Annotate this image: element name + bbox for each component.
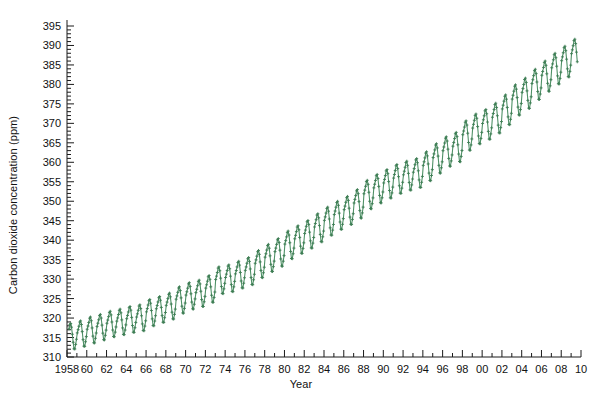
x-tick-label: 78 bbox=[259, 363, 271, 375]
x-tick-label: 1958 bbox=[55, 363, 79, 375]
y-tick-label: 395 bbox=[43, 20, 61, 32]
x-tick-label: 60 bbox=[81, 363, 93, 375]
y-axis-label: Carbon dioxide concentration (ppm) bbox=[7, 85, 19, 325]
x-tick-label: 62 bbox=[100, 363, 112, 375]
y-tick-label: 355 bbox=[43, 176, 61, 188]
x-axis-label: Year bbox=[0, 378, 602, 390]
x-tick-label: 02 bbox=[496, 363, 508, 375]
y-tick-label: 350 bbox=[43, 195, 61, 207]
x-tick-label: 74 bbox=[219, 363, 231, 375]
x-tick-label: 98 bbox=[456, 363, 468, 375]
plot-area: 3103153203253303353403453503553603653703… bbox=[0, 0, 602, 409]
x-tick-label: 90 bbox=[377, 363, 389, 375]
x-tick-label: 80 bbox=[278, 363, 290, 375]
x-tick-label: 84 bbox=[318, 363, 330, 375]
y-tick-label: 345 bbox=[43, 215, 61, 227]
x-tick-label: 66 bbox=[140, 363, 152, 375]
y-tick-label: 380 bbox=[43, 78, 61, 90]
y-tick-label: 385 bbox=[43, 59, 61, 71]
x-tick-label: 72 bbox=[199, 363, 211, 375]
co2-series bbox=[68, 38, 579, 351]
y-tick-label: 320 bbox=[43, 312, 61, 324]
y-axis: 3103153203253303353403453503553603653703… bbox=[43, 20, 74, 363]
x-tick-label: 04 bbox=[516, 363, 528, 375]
co2-concentration-chart: 3103153203253303353403453503553603653703… bbox=[0, 0, 602, 409]
y-tick-label: 340 bbox=[43, 234, 61, 246]
y-tick-label: 315 bbox=[43, 332, 61, 344]
y-tick-label: 375 bbox=[43, 98, 61, 110]
x-tick-label: 10 bbox=[575, 363, 587, 375]
y-tick-label: 370 bbox=[43, 117, 61, 129]
x-axis: 1958606264666870727476788082848688909294… bbox=[55, 350, 587, 375]
x-tick-label: 06 bbox=[535, 363, 547, 375]
y-tick-label: 335 bbox=[43, 254, 61, 266]
x-tick-label: 76 bbox=[239, 363, 251, 375]
y-tick-label: 330 bbox=[43, 273, 61, 285]
x-tick-label: 96 bbox=[436, 363, 448, 375]
y-tick-label: 360 bbox=[43, 156, 61, 168]
x-tick-label: 00 bbox=[476, 363, 488, 375]
x-tick-label: 94 bbox=[417, 363, 429, 375]
y-tick-label: 325 bbox=[43, 293, 61, 305]
x-tick-label: 92 bbox=[397, 363, 409, 375]
x-tick-label: 68 bbox=[160, 363, 172, 375]
data-point-markers bbox=[68, 38, 579, 351]
y-tick-label: 365 bbox=[43, 137, 61, 149]
x-tick-label: 86 bbox=[338, 363, 350, 375]
x-tick-label: 70 bbox=[179, 363, 191, 375]
x-tick-label: 64 bbox=[120, 363, 132, 375]
x-tick-label: 08 bbox=[555, 363, 567, 375]
x-tick-label: 82 bbox=[298, 363, 310, 375]
x-tick-label: 88 bbox=[357, 363, 369, 375]
y-tick-label: 310 bbox=[43, 351, 61, 363]
y-tick-label: 390 bbox=[43, 39, 61, 51]
